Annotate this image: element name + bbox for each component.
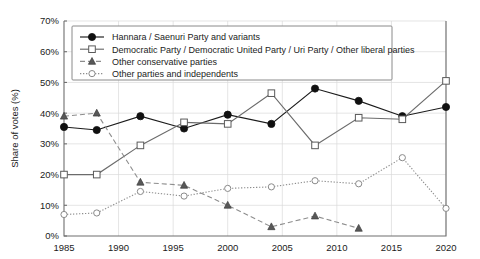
legend-label: Other conservative parties xyxy=(112,57,218,67)
data-point-marker xyxy=(94,210,100,216)
data-point-marker xyxy=(355,97,362,104)
series-line-1 xyxy=(64,81,446,175)
x-tick-label: 1995 xyxy=(163,242,184,253)
y-tick-label: 50% xyxy=(40,77,60,88)
data-point-marker xyxy=(355,224,362,231)
y-tick-label: 70% xyxy=(40,15,60,26)
chart-legend: Hannara / Saenuri Party and variantsDemo… xyxy=(72,26,415,80)
x-tick-label: 2020 xyxy=(435,242,456,253)
data-point-marker xyxy=(312,178,318,184)
data-point-marker xyxy=(93,171,100,178)
x-tick-label: 2005 xyxy=(272,242,293,253)
x-tick-label: 2010 xyxy=(326,242,347,253)
y-tick-label: 40% xyxy=(40,108,60,119)
chart-container: 0%10%20%30%40%50%60%70% 1985199019952000… xyxy=(0,0,480,259)
x-tick-label: 2000 xyxy=(217,242,238,253)
data-point-marker xyxy=(399,155,405,161)
data-point-marker xyxy=(137,188,143,194)
series-line-3 xyxy=(64,158,446,215)
legend-label: Democratic Party / Democratic United Par… xyxy=(112,45,415,55)
x-tick-label: 1985 xyxy=(53,242,74,253)
legend-item-1[interactable]: Democratic Party / Democratic United Par… xyxy=(80,45,415,55)
data-point-marker xyxy=(137,113,144,120)
y-tick-label: 10% xyxy=(40,200,60,211)
y-axis-title: Share of votes (%) xyxy=(9,89,20,168)
data-point-marker xyxy=(181,193,187,199)
legend-label: Hannara / Saenuri Party and variants xyxy=(112,32,261,42)
data-point-marker xyxy=(399,116,406,123)
data-point-marker xyxy=(443,205,449,211)
data-point-marker xyxy=(312,142,319,149)
data-point-marker xyxy=(311,212,318,219)
data-point-marker xyxy=(137,142,144,149)
series-lines xyxy=(64,81,446,228)
data-point-marker xyxy=(181,119,188,126)
line-chart: 0%10%20%30%40%50%60%70% 1985199019952000… xyxy=(0,0,480,259)
legend-marker xyxy=(89,71,95,77)
y-tick-label: 60% xyxy=(40,46,60,57)
legend-marker xyxy=(88,33,95,40)
data-point-marker xyxy=(61,171,68,178)
data-point-marker xyxy=(93,109,100,116)
data-point-marker xyxy=(268,120,275,127)
data-point-marker xyxy=(443,78,450,85)
data-point-marker xyxy=(60,123,67,130)
x-axis-tick-labels: 19851990199520002005201020152020 xyxy=(53,242,456,253)
y-tick-label: 30% xyxy=(40,138,60,149)
data-point-marker xyxy=(224,121,231,128)
series-line-0 xyxy=(64,89,446,130)
data-point-marker xyxy=(311,85,318,92)
data-point-marker xyxy=(268,184,274,190)
data-point-marker xyxy=(137,178,144,185)
x-tick-label: 1990 xyxy=(108,242,129,253)
data-point-marker xyxy=(225,185,231,191)
legend-marker xyxy=(89,46,96,53)
data-point-marker xyxy=(93,126,100,133)
y-tick-label: 0% xyxy=(45,230,59,241)
data-point-marker xyxy=(224,111,231,118)
series-line-2 xyxy=(64,113,359,228)
y-tick-label: 20% xyxy=(40,169,60,180)
data-point-marker xyxy=(61,211,67,217)
data-point-marker xyxy=(356,181,362,187)
data-point-marker xyxy=(268,90,275,97)
data-point-marker xyxy=(355,114,362,121)
data-point-marker xyxy=(224,201,231,208)
x-tick-label: 2015 xyxy=(381,242,402,253)
legend-label: Other parties and independents xyxy=(112,69,239,79)
data-point-marker xyxy=(442,103,449,110)
